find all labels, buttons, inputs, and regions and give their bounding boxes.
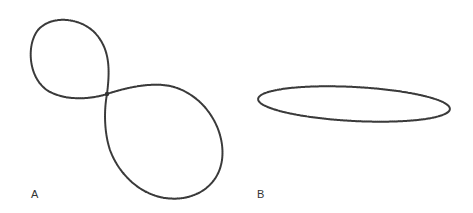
panel-label-b: B xyxy=(257,188,264,200)
panel-a-figure-eight xyxy=(31,20,223,199)
panel-label-a: A xyxy=(31,188,38,200)
figure-eight-large-loop xyxy=(105,85,222,199)
crossing-point xyxy=(105,92,109,96)
panel-b-ellipse xyxy=(257,82,451,126)
figure-eight-small-loop xyxy=(31,20,109,98)
ellipse xyxy=(257,82,451,126)
diagram-canvas xyxy=(0,0,473,213)
